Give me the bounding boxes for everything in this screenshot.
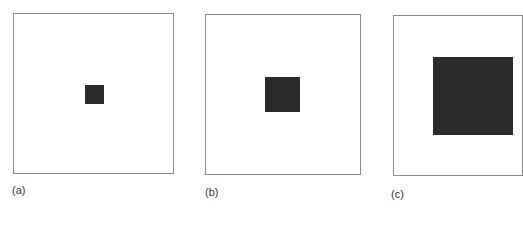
panel-c-label: (c) [391,188,404,200]
panel-b-label: (b) [205,186,218,198]
panel-a-label: (a) [12,184,25,196]
panel-c-square [433,57,513,135]
panel-a-square [85,85,104,104]
panel-b-square [265,77,300,112]
